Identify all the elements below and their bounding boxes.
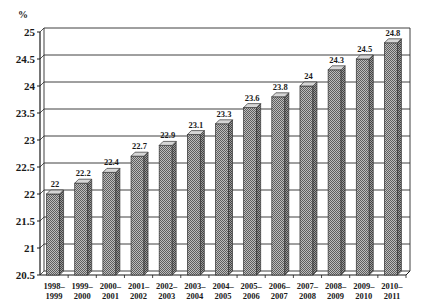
x-category-label: 2007–2008 (297, 281, 319, 301)
y-tick-label: 22.5 (16, 161, 36, 173)
y-tick-label: 21.5 (16, 215, 36, 227)
bar-value-label: 24.5 (357, 44, 372, 54)
y-tick-label: 24.5 (16, 53, 36, 65)
y-tick-label: 25 (24, 26, 36, 38)
x-category-label: 2006–2007 (269, 281, 291, 301)
bar (131, 152, 148, 275)
x-category-label: 2001–2002 (128, 281, 150, 301)
bar (159, 141, 176, 275)
x-category-label: 2008–2009 (325, 281, 347, 301)
bar-value-label: 23.6 (245, 93, 260, 103)
bar-value-label: 23.8 (273, 82, 288, 92)
y-tick-label: 21 (24, 242, 35, 254)
x-category-label: 2010–2011 (381, 281, 403, 301)
bar (300, 82, 317, 275)
bar-value-label: 24 (304, 71, 313, 81)
bar-chart: 20.52121.52222.52323.52424.525%221998–19… (0, 0, 425, 303)
bar-value-label: 23.3 (217, 109, 232, 119)
bar (356, 55, 373, 275)
x-category-label: 2009–2010 (353, 281, 375, 301)
bar-value-label: 23.1 (188, 120, 203, 130)
x-category-label: 2004–2005 (212, 281, 234, 301)
bar-value-label: 22.7 (132, 141, 148, 151)
x-category-label: 2005–2006 (241, 281, 263, 301)
bar-value-label: 22.4 (104, 157, 120, 167)
y-tick-label: 23.5 (16, 107, 36, 119)
bar (187, 131, 204, 275)
bar (103, 168, 120, 275)
bar (328, 66, 345, 275)
x-category-label: 2000–2001 (100, 281, 122, 301)
bar-value-label: 22.9 (160, 130, 175, 140)
bar (384, 39, 401, 275)
bar (47, 190, 64, 275)
y-tick-label: 23 (24, 134, 36, 146)
bar (216, 120, 233, 275)
x-category-label: 1998–1999 (43, 281, 65, 301)
y-tick-label: 24 (24, 80, 36, 92)
y-tick-label: 20.5 (16, 269, 36, 281)
bar (244, 104, 261, 275)
x-category-label: 1999–2000 (72, 281, 94, 301)
bar-value-label: 22.2 (76, 168, 91, 178)
bar (272, 93, 289, 275)
bars (47, 39, 402, 275)
bar-value-label: 24.3 (329, 55, 344, 65)
y-tick-label: 22 (24, 188, 36, 200)
bar (75, 179, 92, 275)
x-category-label: 2002–2003 (156, 281, 178, 301)
bar-value-label: 22 (51, 179, 60, 189)
x-category-label: 2003–2004 (184, 281, 206, 301)
bar-value-label: 24.8 (385, 28, 400, 38)
y-axis-unit-label: % (18, 9, 28, 20)
